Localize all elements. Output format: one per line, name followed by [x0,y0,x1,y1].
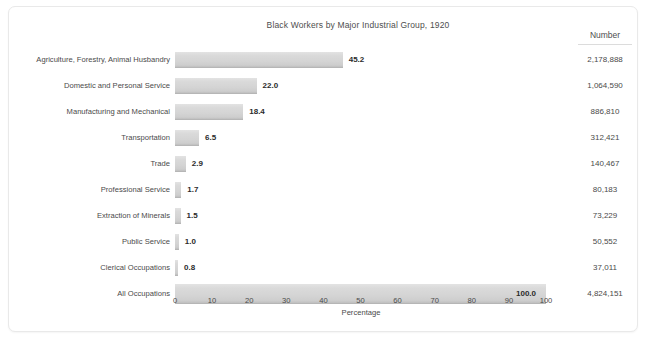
chart-row: Agriculture, Forestry, Animal Husbandry4… [0,47,653,73]
bar-value-label: 0.8 [184,255,195,281]
category-label: Trade [14,151,170,177]
category-label: Agriculture, Forestry, Animal Husbandry [14,47,170,73]
number-value: 1,064,590 [566,73,644,99]
x-tick-label: 20 [237,296,261,305]
x-tick-label: 80 [460,296,484,305]
chart-row: Domestic and Personal Service22.0 [0,73,653,99]
bar [175,208,181,224]
chart-row: Manufacturing and Mechanical18.4 [0,99,653,125]
x-tick-label: 50 [349,296,373,305]
category-label: Domestic and Personal Service [14,73,170,99]
bar [175,182,181,198]
number-value: 37,011 [566,255,644,281]
chart-row: Clerical Occupations0.8 [0,255,653,281]
bar [175,234,179,250]
x-tick-label: 40 [311,296,335,305]
category-label: Professional Service [14,177,170,203]
x-axis-label: Percentage [175,308,547,317]
x-tick-label: 100 [534,296,558,305]
number-value: 80,183 [566,177,644,203]
number-value: 312,421 [566,125,644,151]
bar-value-label: 18.4 [249,99,265,125]
number-value: 50,552 [566,229,644,255]
x-tick-label: 60 [386,296,410,305]
category-label: Public Service [14,229,170,255]
number-value: 2,178,888 [566,47,644,73]
category-label: Clerical Occupations [14,255,170,281]
bar [175,78,257,94]
bar [175,104,243,120]
x-tick-label: 10 [200,296,224,305]
bar-value-label: 1.0 [185,229,196,255]
category-label: Extraction of Minerals [14,203,170,229]
number-value: 886,810 [566,99,644,125]
bar [175,260,178,276]
category-label: Transportation [14,125,170,151]
bar [175,52,343,68]
bar-value-label: 22.0 [263,73,279,99]
x-tick-label: 0 [163,296,187,305]
bar-value-label: 6.5 [205,125,216,151]
bar-value-label: 2.9 [192,151,203,177]
category-label: Manufacturing and Mechanical [14,99,170,125]
number-value: 73,229 [566,203,644,229]
x-tick-label: 90 [497,296,521,305]
chart-row: Public Service1.0 [0,229,653,255]
x-tick-label: 70 [423,296,447,305]
chart-row: Extraction of Minerals1.5 [0,203,653,229]
bar [175,156,186,172]
bar-value-label: 45.2 [349,47,365,73]
x-axis: Percentage 0102030405060708090100 [0,296,653,326]
chart-row: Professional Service1.7 [0,177,653,203]
x-tick-label: 30 [274,296,298,305]
chart-row: Trade2.9 [0,151,653,177]
number-value: 140,467 [566,151,644,177]
bar [175,130,199,146]
chart-row: Transportation6.5 [0,125,653,151]
bar-value-label: 1.5 [187,203,198,229]
bar-value-label: 1.7 [187,177,198,203]
